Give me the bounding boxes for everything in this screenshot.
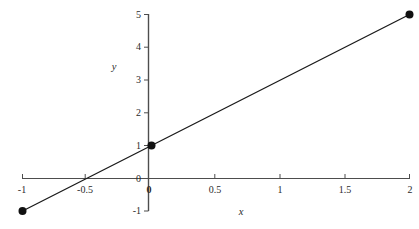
y-tick-label-1: 1: [136, 141, 141, 151]
y-tick-label-2: 2: [136, 108, 141, 118]
data-series-line: [23, 15, 410, 212]
x-tick-label-2: 2: [408, 185, 413, 195]
x-tick-label--0-5: -0.5: [77, 185, 93, 195]
x-axis-title: x: [239, 207, 244, 218]
x-tick-label-0-5: 0.5: [209, 185, 222, 195]
x-tick-label-0: 0: [147, 185, 152, 195]
y-tick-label-3: 3: [136, 75, 141, 85]
y-tick-label--1: -1: [133, 206, 141, 216]
y-tick-label-5: 5: [136, 10, 141, 20]
chart-figure: -1 -0.5 0 0.5 1 1.5 2 5 4 3 2 1 0 -1 y x: [0, 0, 419, 229]
data-point-marker: [148, 142, 156, 150]
x-tick-label-1: 1: [278, 185, 283, 195]
x-axis-ticks: [23, 174, 410, 179]
y-tick-label-4: 4: [136, 42, 141, 52]
x-tick-label--1: -1: [18, 185, 26, 195]
x-tick-label-1-5: 1.5: [339, 185, 352, 195]
y-tick-label-0: 0: [136, 174, 141, 184]
data-point-marker: [19, 207, 27, 215]
data-point-marker: [406, 11, 414, 19]
y-axis-title: y: [112, 62, 117, 73]
